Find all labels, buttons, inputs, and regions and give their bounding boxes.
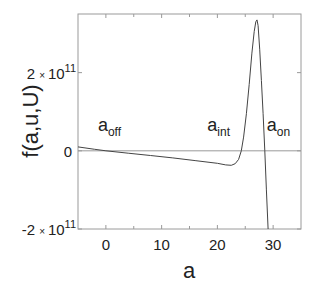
x-ticks: 0102030 [102, 14, 282, 253]
y-tick-label: 2 × 1011 [27, 62, 76, 82]
x-tick-label: 20 [209, 236, 226, 253]
annotation-a-int: aint [207, 115, 230, 139]
annotations: aoffaintaon [98, 115, 290, 139]
chart: 0102030 2 × 10110-2 × 1011 aoffaintaon a… [0, 0, 310, 288]
y-axis-title: f(a,u,U) [18, 84, 43, 157]
y-tick-label: 0 [64, 143, 72, 160]
annotation-a-on: aon [267, 115, 290, 139]
annotation-a-off: aoff [98, 115, 122, 139]
x-tick-label: 30 [265, 236, 282, 253]
x-axis-title: a [183, 258, 196, 283]
x-tick-label: 0 [102, 236, 110, 253]
y-tick-label: -2 × 1011 [22, 218, 76, 238]
y-ticks: 2 × 10110-2 × 1011 [22, 62, 301, 238]
x-tick-label: 10 [153, 236, 170, 253]
